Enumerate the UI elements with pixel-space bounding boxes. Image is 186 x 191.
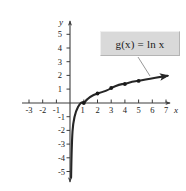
y-tick-label--3: -3 bbox=[58, 139, 65, 149]
x-tick-label-7: 7 bbox=[164, 105, 168, 115]
y-tick-label--2: -2 bbox=[58, 125, 65, 135]
x-tick-label-1: 1 bbox=[80, 105, 84, 115]
data-point-4 bbox=[123, 82, 127, 86]
x-axis: -3 -2 -1 1 2 3 4 5 6 7 x bbox=[22, 100, 178, 116]
equation-label: g(x) = ln x bbox=[115, 38, 164, 50]
x-tick-label-5: 5 bbox=[136, 105, 140, 115]
y-axis: 5 4 3 2 1 -1 -2 -3 -4 -5 y bbox=[58, 17, 70, 182]
ln-curve bbox=[71, 76, 167, 178]
y-axis-label: y bbox=[58, 17, 63, 27]
y-tick-label--5: -5 bbox=[58, 167, 65, 177]
y-tick-label-5: 5 bbox=[58, 29, 62, 39]
data-point-2 bbox=[96, 92, 100, 96]
y-tick-label-2: 2 bbox=[58, 70, 62, 80]
x-axis-label: x bbox=[173, 105, 178, 115]
y-tick-label--4: -4 bbox=[58, 153, 66, 163]
data-point-5 bbox=[137, 79, 141, 83]
x-tick-label-4: 4 bbox=[123, 105, 128, 115]
y-tick-label-1: 1 bbox=[58, 84, 62, 94]
x-tick-label-6: 6 bbox=[150, 105, 154, 115]
y-tick-label-4: 4 bbox=[58, 43, 63, 53]
y-tick-label--1: -1 bbox=[58, 112, 65, 122]
equation-callout: g(x) = ln x bbox=[100, 31, 180, 56]
plot-canvas: -3 -2 -1 1 2 3 4 5 6 7 x 5 4 bbox=[0, 0, 186, 191]
x-tick-label--2: -2 bbox=[39, 105, 46, 115]
logarithmic-function-graph: -3 -2 -1 1 2 3 4 5 6 7 x 5 4 bbox=[0, 0, 186, 191]
x-tick-label-2: 2 bbox=[95, 105, 99, 115]
callout-leader-line bbox=[138, 57, 150, 76]
y-tick-label-3: 3 bbox=[58, 57, 62, 67]
data-point-3 bbox=[109, 86, 113, 90]
x-tick-label-3: 3 bbox=[109, 105, 113, 115]
x-tick-label--3: -3 bbox=[25, 105, 32, 115]
data-point-1 bbox=[82, 101, 86, 105]
